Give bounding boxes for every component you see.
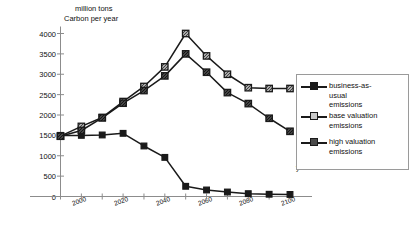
legend-item[interactable]: high valuation emissions xyxy=(301,137,375,156)
legend-marker-icon xyxy=(301,81,327,92)
data-point-marker xyxy=(162,155,168,161)
data-point-marker xyxy=(245,191,251,197)
legend-marker-icon xyxy=(301,111,327,122)
data-point-marker xyxy=(204,187,210,193)
chart-legend: business-as- usual emissionsbase valuati… xyxy=(296,74,409,170)
series-3 xyxy=(57,51,293,140)
legend-marker-icon xyxy=(301,137,327,148)
series-1 xyxy=(58,131,293,198)
data-point-marker xyxy=(245,85,251,91)
legend-item[interactable]: base valuation emissions xyxy=(301,111,377,130)
series-line xyxy=(61,54,291,136)
data-point-marker xyxy=(162,73,168,79)
data-point-marker xyxy=(141,87,147,93)
data-point-marker xyxy=(183,184,189,190)
data-point-marker xyxy=(224,71,230,77)
data-point-marker xyxy=(287,128,293,134)
data-point-marker xyxy=(120,131,126,137)
data-point-marker xyxy=(182,30,188,36)
data-point-marker xyxy=(245,100,251,106)
data-point-marker xyxy=(225,189,231,195)
data-point-marker xyxy=(99,132,105,138)
data-point-marker xyxy=(266,191,272,197)
legend-label: business-as- usual emissions xyxy=(327,81,372,110)
legend-label: high valuation emissions xyxy=(327,137,375,156)
data-point-marker xyxy=(99,115,105,121)
data-point-marker xyxy=(224,89,230,95)
data-point-marker xyxy=(162,64,168,70)
data-point-marker xyxy=(203,53,209,59)
series-line xyxy=(61,34,291,137)
data-point-marker xyxy=(78,127,84,133)
data-point-marker xyxy=(57,133,63,139)
data-point-marker xyxy=(203,69,209,75)
data-point-marker xyxy=(287,192,293,198)
data-point-marker xyxy=(120,100,126,106)
data-point-marker xyxy=(266,85,272,91)
data-point-marker xyxy=(287,85,293,91)
chart-container: million tons Carbon per year 05001000150… xyxy=(0,0,413,228)
axes-group xyxy=(30,27,312,200)
data-point-marker xyxy=(182,51,188,57)
data-point-marker xyxy=(141,143,147,149)
legend-label: base valuation emissions xyxy=(327,111,377,130)
series-line xyxy=(61,133,291,194)
data-point-marker xyxy=(266,115,272,121)
legend-item[interactable]: business-as- usual emissions xyxy=(301,81,372,110)
